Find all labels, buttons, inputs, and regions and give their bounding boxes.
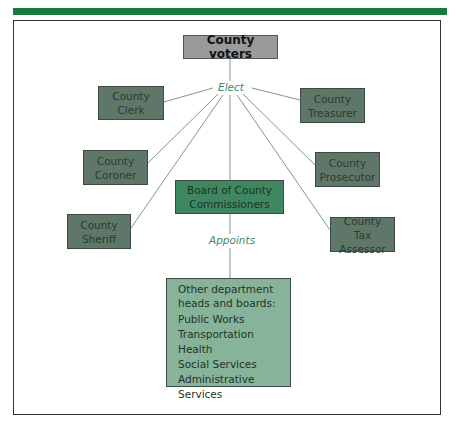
- appoints-label: Appoints: [207, 234, 257, 246]
- department-item: Transportation: [178, 327, 254, 342]
- office-line1: County: [344, 214, 381, 228]
- department-item: Administrative Services: [178, 372, 290, 402]
- board-line1: Board of County: [187, 183, 272, 197]
- office-line2: Treasurer: [308, 106, 357, 120]
- office-line2: Clerk: [117, 103, 144, 117]
- department-item: Social Services: [178, 357, 257, 372]
- county-sheriff-box: County Sheriff: [67, 214, 131, 249]
- office-line2: Sheriff: [82, 232, 116, 246]
- county-tax-assessor-box: County Tax Assessor: [330, 217, 395, 252]
- office-line2: Tax Assessor: [331, 228, 394, 256]
- office-line1: County: [112, 89, 149, 103]
- county-coroner-box: County Coroner: [83, 150, 148, 185]
- office-line1: County: [80, 218, 117, 232]
- office-line1: County: [329, 156, 366, 170]
- other-header-line2: heads and boards:: [178, 298, 275, 309]
- county-treasurer-box: County Treasurer: [300, 88, 365, 123]
- office-line1: County: [97, 154, 134, 168]
- county-voters-box: County voters: [183, 35, 278, 59]
- board-line2: Commissioners: [189, 197, 269, 211]
- county-clerk-box: County Clerk: [98, 86, 164, 120]
- county-prosecutor-box: County Prosecutor: [315, 152, 380, 187]
- elect-label: Elect: [216, 81, 246, 93]
- other-departments-box: Other department heads and boards: Publi…: [166, 278, 291, 387]
- department-item: Public Works: [178, 312, 244, 327]
- county-voters-label: County voters: [184, 33, 277, 61]
- office-line2: Coroner: [95, 168, 137, 182]
- department-item: Health: [178, 342, 212, 357]
- board-of-commissioners-box: Board of County Commissioners: [175, 180, 284, 214]
- office-line1: County: [314, 92, 351, 106]
- other-header-line1: Other department: [178, 284, 273, 295]
- office-line2: Prosecutor: [320, 170, 376, 184]
